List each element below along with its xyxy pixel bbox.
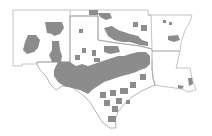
county-region: [45, 22, 64, 36]
county-region: [94, 58, 100, 62]
county-region: [89, 10, 98, 15]
county-region: [116, 98, 122, 104]
highlighted-counties: [23, 10, 193, 122]
county-region: [169, 22, 172, 25]
county-region: [130, 82, 136, 88]
county-region: [49, 41, 62, 62]
county-map: [0, 0, 212, 136]
county-region: [163, 20, 166, 23]
state-arkansas: [148, 15, 192, 51]
county-region: [23, 35, 40, 54]
county-region: [112, 106, 118, 112]
county-region: [108, 116, 116, 122]
county-region: [75, 55, 80, 60]
county-region: [110, 90, 116, 96]
county-region: [92, 50, 96, 56]
county-region: [141, 25, 147, 31]
county-region: [79, 29, 83, 33]
county-region: [120, 88, 128, 94]
county-region: [126, 100, 130, 104]
county-region: [104, 46, 120, 54]
county-region: [168, 35, 180, 42]
county-region: [104, 100, 110, 106]
county-region: [140, 74, 146, 80]
county-region: [100, 92, 106, 98]
county-region: [98, 13, 112, 20]
county-region: [82, 48, 86, 53]
county-region: [133, 22, 138, 27]
state-louisiana: [152, 51, 196, 92]
